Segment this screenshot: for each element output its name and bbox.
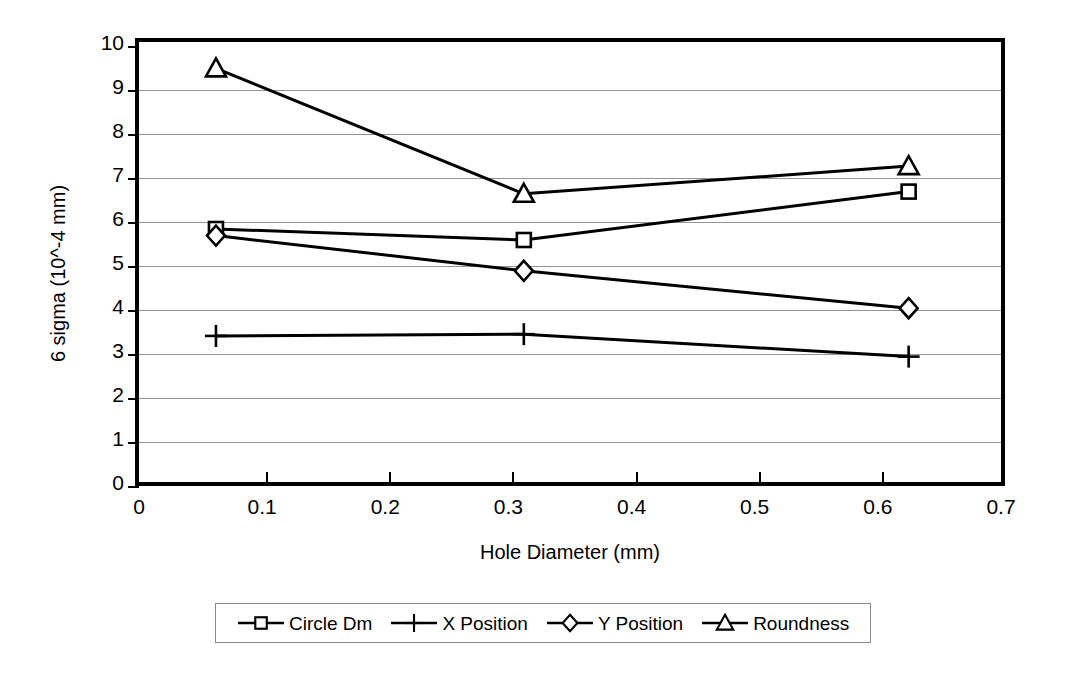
square-marker-icon [237,613,285,633]
y-tick-label: 4 [92,296,124,317]
data-series [209,185,916,247]
data-series [205,323,920,367]
y-tick-label: 5 [92,252,124,273]
y-tick-mark [128,486,139,488]
diamond-marker-icon [515,261,533,281]
plot-area [135,38,1005,486]
y-tick-mark [128,134,139,136]
chart-figure: 6 sigma (10^-4 mm) 012345678910 00.10.20… [0,0,1067,681]
legend-label: Roundness [753,614,849,633]
y-tick-label: 0 [92,472,124,493]
x-tick-label: 0.2 [345,496,425,517]
triangle-marker-icon [899,156,919,174]
legend-entry: Roundness [701,613,849,633]
y-tick-mark [128,46,139,48]
y-tick-label: 8 [92,120,124,141]
legend-entry: Circle Dm [237,613,372,633]
y-tick-label: 9 [92,76,124,97]
y-tick-mark [128,310,139,312]
series-line [216,236,909,309]
x-tick-label: 0 [99,496,179,517]
y-tick-mark [128,222,139,224]
series-line [216,68,909,193]
data-series [207,226,918,319]
y-axis-tick-labels: 012345678910 [92,38,124,486]
chart-legend: Circle DmX PositionY PositionRoundness [215,603,871,643]
x-axis-tick-labels: 00.10.20.30.40.50.60.7 [0,496,1067,526]
y-tick-mark [128,398,139,400]
y-axis-title: 6 sigma (10^-4 mm) [47,124,70,424]
y-tick-label: 2 [92,384,124,405]
y-tick-label: 7 [92,164,124,185]
square-marker-icon [255,617,266,628]
square-marker-icon [902,185,916,199]
series-line [216,334,909,356]
legend-label: Circle Dm [289,614,372,633]
legend-entry: Y Position [546,613,683,633]
y-tick-label: 6 [92,208,124,229]
x-tick-label: 0.4 [592,496,672,517]
square-marker-icon [517,233,531,247]
plus-marker-icon [898,346,920,368]
data-series-layer [139,42,1001,482]
plus-marker-icon [205,325,227,347]
plot-inner [139,42,1001,482]
legend-label: X Position [442,614,528,633]
data-series [206,58,919,201]
plus-marker-icon [513,323,535,345]
x-tick-label: 0.7 [961,496,1041,517]
legend-label: Y Position [598,614,683,633]
x-tick-label: 0.6 [838,496,918,517]
y-tick-mark [128,442,139,444]
diamond-marker-icon [900,298,918,318]
y-tick-label: 3 [92,340,124,361]
x-tick-label: 0.5 [715,496,795,517]
y-tick-label: 10 [92,32,124,53]
y-tick-mark [128,266,139,268]
plus-marker-icon [390,613,438,633]
x-tick-label: 0.1 [222,496,302,517]
y-tick-label: 1 [92,428,124,449]
diamond-marker-icon [546,613,594,633]
triangle-marker-icon [701,613,749,633]
plus-marker-icon [405,614,423,632]
x-axis-title: Hole Diameter (mm) [135,541,1005,564]
diamond-marker-icon [563,615,578,631]
series-line [216,192,909,240]
y-tick-mark [128,354,139,356]
y-tick-mark [128,178,139,180]
triangle-marker-icon [206,58,226,76]
y-tick-mark [128,90,139,92]
legend-entry: X Position [390,613,528,633]
x-tick-label: 0.3 [468,496,548,517]
